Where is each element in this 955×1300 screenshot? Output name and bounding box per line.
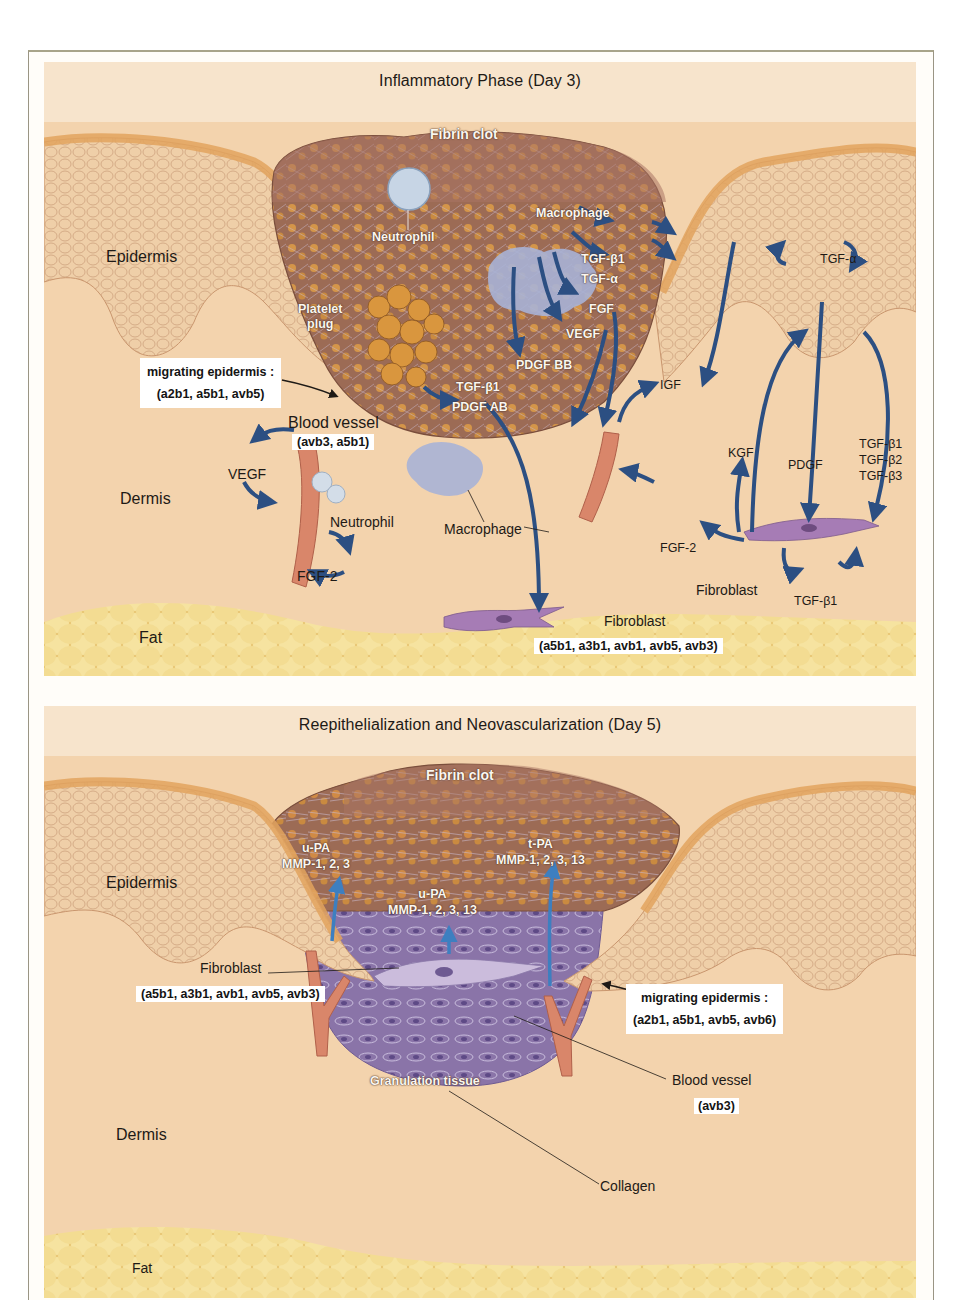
- gf-tgf-b1-autocrine: TGF-β1: [794, 594, 837, 608]
- annotation-migrating-epidermis: migrating epidermis : (a2b1, a5b1, avb5): [140, 358, 281, 408]
- gf-kgf: KGF: [728, 446, 754, 460]
- panel-inflammatory-phase: Inflammatory Phase (Day 3) Epidermis Der…: [44, 62, 916, 676]
- label-collagen: Collagen: [600, 1178, 655, 1194]
- gf-vessel-vegf: VEGF: [228, 466, 266, 482]
- label-epidermis: Epidermis: [106, 248, 177, 266]
- label-macrophage-dermis: Macrophage: [444, 521, 522, 537]
- label-macrophage-clot: Macrophage: [536, 206, 610, 220]
- gf-platelet-tgf-b1: TGF-β1: [456, 380, 500, 394]
- annotation-blood-vessel-2: (avb3): [694, 1098, 739, 1114]
- gf-macrophage-pdgf-bb: PDGF BB: [516, 358, 572, 372]
- annotation-fibroblast: (a5b1, a3b1, avb1, avb5, avb3): [534, 638, 723, 654]
- label-fibrin-clot-2: Fibrin clot: [426, 767, 494, 783]
- panel-2-title: Reepithelialization and Neovascularizati…: [44, 716, 916, 734]
- label-fibrin-clot: Fibrin clot: [430, 126, 498, 142]
- enzymes-center: u-PA MMP-1, 2, 3, 13: [388, 886, 477, 918]
- label-platelet-plug: Platelet plug: [298, 302, 342, 332]
- label-fibroblast-bottom: Fibroblast: [604, 613, 665, 629]
- label-neutrophil-dermis: Neutrophil: [330, 514, 394, 530]
- label-fibroblast-right: Fibroblast: [696, 582, 757, 598]
- annotation-blood-vessel: (avb3, a5b1): [292, 434, 374, 450]
- gf-igf: IGF: [660, 378, 681, 392]
- label-dermis-2: Dermis: [116, 1126, 167, 1144]
- gf-macrophage-fgf: FGF: [589, 302, 614, 316]
- gf-tgf-betas: TGF-β1 TGF-β2 TGF-β3: [859, 436, 902, 484]
- label-granulation-tissue: Granulation tissue: [370, 1074, 480, 1088]
- label-fat: Fat: [139, 629, 162, 647]
- gf-platelet-pdgf-ab: PDGF AB: [452, 400, 508, 414]
- reepithelialization-illustration: [44, 706, 916, 1298]
- gf-pdgf: PDGF: [788, 458, 823, 472]
- annotation-fibroblast-2: (a5b1, a3b1, avb1, avb5, avb3): [136, 986, 325, 1002]
- gf-macrophage-tgf-b1: TGF-β1: [581, 252, 625, 266]
- gf-macrophage-tgf-a: TGF-α: [581, 272, 618, 286]
- label-blood-vessel-2: Blood vessel: [672, 1072, 751, 1088]
- gf-tgf-alpha: TGF-α: [820, 252, 856, 266]
- label-blood-vessel: Blood vessel: [288, 414, 379, 432]
- label-neutrophil-clot: Neutrophil: [372, 230, 435, 244]
- panel-reepithelialization: Reepithelialization and Neovascularizati…: [44, 706, 916, 1298]
- panel-1-title: Inflammatory Phase (Day 3): [44, 72, 916, 90]
- gf-macrophage-vegf: VEGF: [566, 327, 600, 341]
- label-fibroblast-2: Fibroblast: [200, 960, 261, 976]
- label-dermis: Dermis: [120, 490, 171, 508]
- label-fat-2: Fat: [132, 1260, 152, 1276]
- enzymes-left: u-PA MMP-1, 2, 3: [282, 840, 350, 872]
- gf-fgf-2-right: FGF-2: [660, 541, 696, 555]
- label-epidermis-2: Epidermis: [106, 874, 177, 892]
- annotation-migrating-epidermis-2: migrating epidermis : (a2b1, a5b1, avb5,…: [626, 984, 783, 1034]
- enzymes-right: t-PA MMP-1, 2, 3, 13: [496, 836, 585, 868]
- gf-vessel-fgf-2: FGF-2: [297, 568, 337, 584]
